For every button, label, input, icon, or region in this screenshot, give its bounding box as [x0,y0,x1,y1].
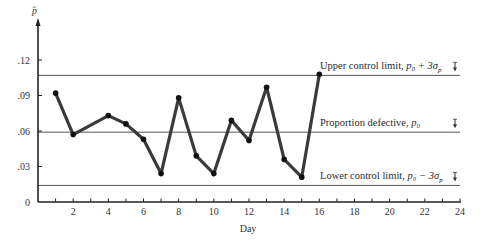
data-point-day-15 [299,174,305,180]
x-tick-label: 18 [350,206,360,217]
center-line-label: Proportion defective, p₀ [320,117,421,128]
lower-control-limit-label: Lower control limit, p₀ − 3σp̂ [320,170,443,184]
y-axis-label: p̂ [31,5,37,16]
down-arrow-head-icon [453,67,457,71]
x-tick-label: 6 [141,206,146,217]
data-point-day-5 [123,121,129,127]
y-tick-label: .03 [18,161,31,172]
x-tick-label: 8 [176,206,181,217]
data-point-day-9 [193,153,199,159]
x-tick-label: 20 [385,206,395,217]
x-tick-label: 16 [314,206,324,217]
data-point-day-12 [246,138,252,144]
x-tick-label: 14 [279,206,289,217]
x-tick-label: 24 [455,206,465,217]
data-point-day-14 [281,157,287,163]
y-tick-label: .09 [18,90,31,101]
data-point-day-8 [176,95,182,101]
series [53,71,322,180]
down-arrow-head-icon [453,177,457,181]
data-point-day-16 [317,71,323,77]
series-line [56,74,320,177]
data-point-day-4 [106,113,112,119]
data-point-day-6 [141,136,147,142]
x-tick-label: 2 [71,206,76,217]
y-tick-label: 0 [25,197,30,208]
control-chart: Upper control limit, p₀ + 3σp̂Proportion… [0,0,480,242]
reference-lines: Upper control limit, p₀ + 3σp̂Proportion… [38,60,460,185]
down-arrow-head-icon [453,124,457,128]
y-axis-arrow-icon [36,18,41,26]
data-point-day-7 [158,171,164,177]
x-tick-label: 10 [209,206,219,217]
y-tick-label: .06 [18,126,31,137]
x-tick-label: 22 [420,206,430,217]
data-point-day-13 [264,84,270,90]
upper-control-limit-label: Upper control limit, p₀ + 3σp̂ [320,60,442,74]
data-point-day-1 [53,90,59,96]
data-point-day-10 [211,171,217,177]
y-tick-label: .12 [18,55,31,66]
x-tick-label: 4 [106,206,111,217]
x-axis-label: Day [240,223,257,234]
data-point-day-11 [229,118,235,124]
data-point-day-2 [70,132,76,138]
x-tick-label: 12 [244,206,254,217]
